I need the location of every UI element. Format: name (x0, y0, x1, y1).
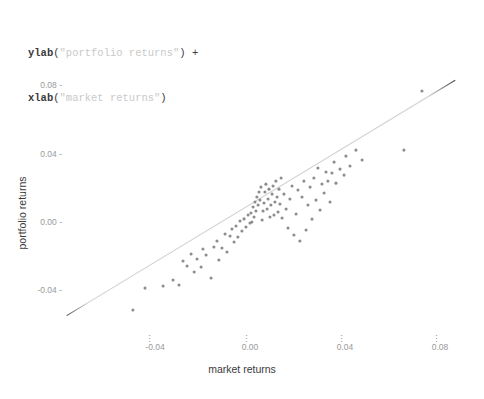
data-point (230, 227, 233, 230)
data-point (257, 204, 260, 207)
data-point (268, 215, 271, 218)
data-point (328, 200, 331, 203)
data-point (271, 185, 274, 188)
data-point (229, 234, 232, 237)
data-point (344, 155, 347, 158)
data-point (244, 225, 247, 228)
data-point (190, 252, 193, 255)
data-point (333, 161, 336, 164)
data-point (262, 209, 265, 212)
x-tick-label: ⋮0.08 (432, 337, 449, 352)
data-point (143, 287, 146, 290)
data-point (177, 283, 180, 286)
data-point (215, 239, 218, 242)
code-function-ylab: ylab (28, 47, 53, 59)
y-tick-label: -0.04 - (0, 285, 62, 295)
code-string-portfolio-returns: "portfolio returns" (60, 47, 180, 59)
data-point (273, 200, 276, 203)
data-point (280, 176, 283, 179)
data-point (267, 188, 270, 191)
data-point (276, 195, 279, 198)
data-point (290, 185, 293, 188)
data-point (298, 239, 301, 242)
data-point (162, 284, 165, 287)
data-point (253, 200, 256, 203)
data-point (295, 212, 298, 215)
trend-line (67, 80, 456, 315)
data-point (277, 188, 280, 191)
data-point (252, 215, 255, 218)
data-point (186, 264, 189, 267)
data-point (269, 204, 272, 207)
data-point (324, 170, 327, 173)
data-point (319, 208, 322, 211)
data-point (316, 167, 319, 170)
data-point (276, 211, 279, 214)
x-axis-title: market returns (208, 363, 276, 375)
data-point (302, 180, 305, 183)
data-point (258, 199, 261, 202)
data-point (240, 230, 243, 233)
y-axis-title: portfolio returns (16, 177, 28, 250)
data-point (266, 207, 269, 210)
data-point (236, 236, 239, 239)
data-point (281, 217, 284, 220)
data-point (306, 204, 309, 207)
data-point (330, 171, 333, 174)
data-point (201, 248, 204, 251)
data-points (131, 89, 423, 311)
data-point (305, 229, 308, 232)
data-point (234, 224, 237, 227)
data-point (285, 207, 288, 210)
data-point (220, 246, 223, 249)
data-point (195, 257, 198, 260)
data-point (278, 202, 281, 205)
data-point (292, 233, 295, 236)
data-point (288, 198, 291, 201)
data-point (272, 213, 275, 216)
data-point (334, 182, 337, 185)
data-point (271, 193, 274, 196)
y-tick-label: 0.04 - (0, 149, 62, 159)
data-point (172, 278, 175, 281)
data-point (348, 164, 351, 167)
y-tick-label: 0.00 - (0, 217, 62, 227)
x-tick-label: ⋮0.00 (242, 337, 259, 352)
data-point (338, 168, 341, 171)
data-point (233, 240, 236, 243)
data-point (255, 195, 258, 198)
data-point (200, 265, 203, 268)
x-tick-label: ⋮0.04 (337, 337, 354, 352)
code-line-ylab: ylab("portfolio returns") + (28, 46, 198, 61)
x-tick-label: ⋮-0.04 (145, 337, 164, 352)
data-point (193, 270, 196, 273)
data-point (343, 174, 346, 177)
data-point (309, 186, 312, 189)
data-point (314, 199, 317, 202)
data-point (225, 250, 228, 253)
data-point (249, 211, 252, 214)
data-point (286, 226, 289, 229)
data-point (296, 188, 299, 191)
data-point (274, 180, 277, 183)
data-point (243, 217, 246, 220)
data-point (420, 89, 423, 92)
data-point (217, 258, 220, 261)
data-point (320, 182, 323, 185)
data-point (252, 205, 255, 208)
data-point (261, 218, 264, 221)
data-point (312, 176, 315, 179)
y-tick-label: 0.08 - (0, 80, 62, 90)
data-point (247, 213, 250, 216)
data-point (326, 180, 329, 183)
data-point (361, 158, 364, 161)
data-point (254, 209, 257, 212)
data-point (262, 201, 265, 204)
data-point (402, 149, 405, 152)
data-point (181, 259, 184, 262)
data-point (263, 190, 266, 193)
data-point (238, 219, 241, 222)
data-point (257, 190, 260, 193)
scatter-plot: -0.04 -0.00 -0.04 -0.08 - ⋮-0.04⋮0.00⋮0.… (0, 60, 484, 399)
data-point (310, 218, 313, 221)
